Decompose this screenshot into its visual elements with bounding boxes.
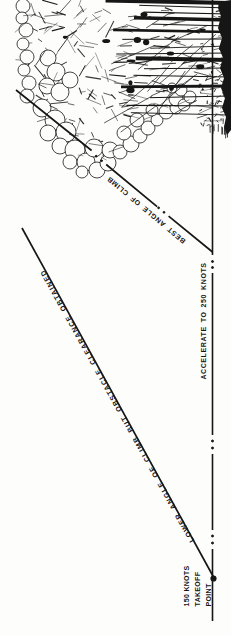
takeoff-point-label-line3: POINT — [203, 566, 214, 607]
accelerate-speed-label: ACCELERATE TO 250 KNOTS — [200, 262, 207, 379]
takeoff-point-label-line1: 150 KNOTS — [181, 566, 192, 607]
takeoff-point-label-line2: TAKEOFF — [192, 566, 203, 607]
climb-profile-diagram: BEST ANGLE OF CLIMB LOWER ANGLE OF CLIMB… — [0, 0, 231, 636]
takeoff-point-label: 150 KNOTS TAKEOFF POINT — [181, 566, 214, 607]
trees-illustration — [15, 0, 231, 178]
ground-line — [212, 0, 214, 621]
diagram-canvas — [0, 0, 231, 636]
